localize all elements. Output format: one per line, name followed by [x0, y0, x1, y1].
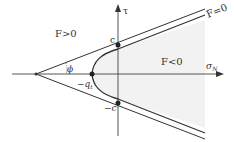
tension-cutoff-point: [90, 72, 95, 77]
friction-angle-label: ϕ: [67, 64, 73, 74]
yield-surface-diagram: F>0 F<0 F=0 τ σN c −c −qt ϕ: [0, 0, 234, 142]
tension-cutoff-label: −qt: [77, 79, 93, 90]
tension-cutoff-subscript: t: [90, 83, 93, 90]
tension-cutoff-symbol: −q: [77, 79, 91, 89]
sigma-n-axis-label: σN: [206, 61, 218, 72]
region-label-inside: F<0: [161, 56, 183, 67]
boundary-label: F=0: [205, 2, 229, 20]
tau-axis-label: τ: [123, 6, 128, 16]
tau-axis-arrow-icon: [115, 4, 121, 12]
region-label-outside: F>0: [55, 28, 77, 39]
cohesion-top-point: [116, 43, 121, 48]
cohesion-top-label: c: [110, 35, 115, 45]
apex-point: [35, 73, 38, 76]
sigma-subscript: N: [211, 65, 218, 72]
cohesion-bottom-label: −c: [104, 103, 117, 113]
